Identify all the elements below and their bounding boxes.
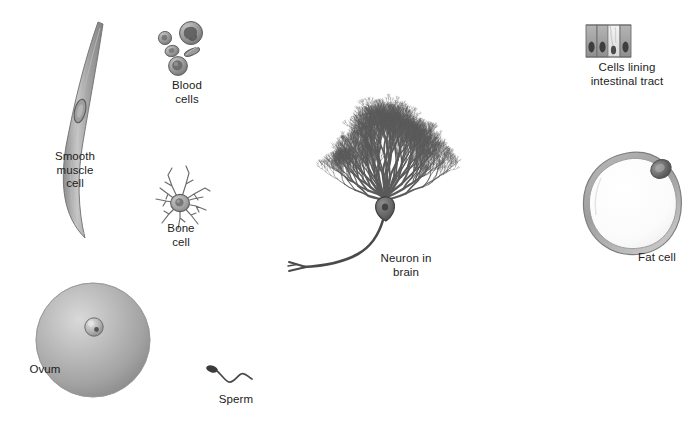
label-ovum: Ovum — [14, 363, 76, 377]
label-neuron-in-brain: Neuron in brain — [358, 252, 454, 279]
label-smooth-muscle-cell: Smooth muscle cell — [30, 150, 120, 191]
sperm-tail — [217, 371, 252, 382]
neuron-in-brain-figure — [288, 94, 461, 271]
ovum-figure — [36, 283, 150, 397]
label-bone-cell: Bone cell — [143, 222, 219, 249]
smooth-muscle-cell-figure — [63, 22, 103, 238]
sperm-head — [205, 364, 219, 374]
sperm-figure — [205, 364, 252, 382]
label-blood-cells: Blood cells — [150, 79, 224, 106]
bone-cell-figure — [156, 166, 210, 229]
label-sperm: Sperm — [205, 393, 267, 407]
label-cells-lining-intestinal-tract: Cells lining intestinal tract — [562, 61, 692, 88]
blood-cells-figure — [158, 22, 202, 76]
cells-lining-intestinal-tract-figure — [586, 25, 631, 57]
label-fat-cell: Fat cell — [622, 251, 692, 265]
fat-cell-figure — [583, 152, 681, 254]
ovum-nucleus — [85, 318, 103, 336]
